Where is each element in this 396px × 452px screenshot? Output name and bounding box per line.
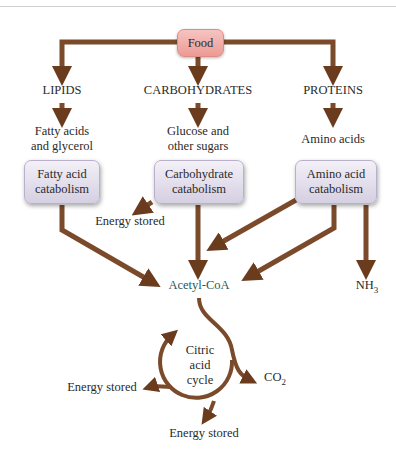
food-box: Food: [177, 29, 224, 57]
product-carbohydrates: Glucose and other sugars: [158, 124, 238, 154]
category-lipids: LIPIDS: [37, 83, 87, 98]
food-label: Food: [188, 36, 214, 51]
category-proteins: PROTEINS: [298, 83, 368, 98]
category-carbohydrates: CARBOHYDRATES: [143, 83, 253, 98]
acetyl-coa: Acetyl-CoA: [160, 278, 238, 293]
arrow-food-proteins: [222, 42, 333, 76]
energy-stored-carb: Energy stored: [90, 214, 170, 229]
amino-acid-catabolism-box: Amino acidcatabolism: [295, 160, 377, 204]
energy-stored-left: Energy stored: [62, 380, 142, 395]
nh3-label: NH3: [347, 278, 387, 298]
energy-stored-bottom: Energy stored: [164, 426, 244, 441]
citric-acid-cycle-label: Citric acid cycle: [180, 343, 220, 388]
co2-label: CO2: [260, 370, 290, 390]
arrow-food-lipids: [62, 42, 177, 76]
product-proteins: Amino acids: [293, 132, 373, 147]
fatty-acid-catabolism-box: Fatty acidcatabolism: [24, 160, 100, 204]
carbohydrate-catabolism-box: Carbohydratecatabolism: [154, 160, 244, 204]
product-lipids: Fatty acids and glycerol: [22, 124, 102, 154]
